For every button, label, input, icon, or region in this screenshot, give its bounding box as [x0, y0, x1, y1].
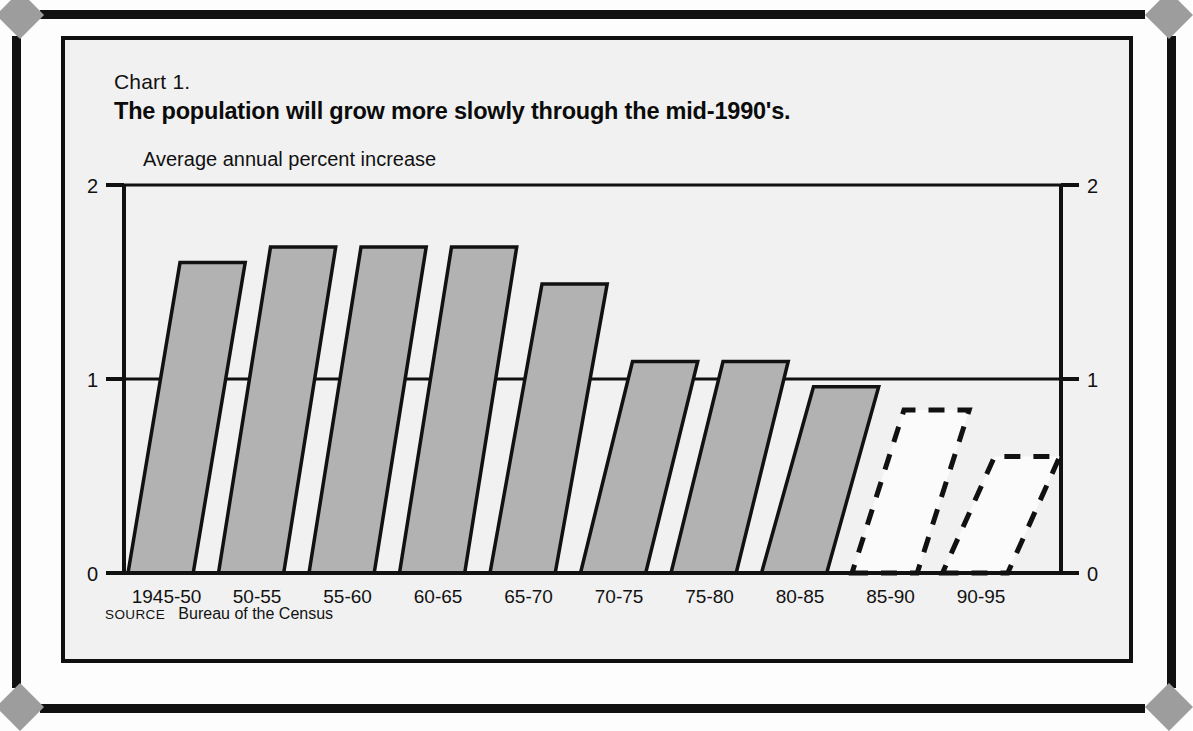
page-frame-top-rule	[40, 10, 1145, 19]
y-tick-label-left-1: 1	[87, 369, 98, 391]
x-axis-label-75-80: 75-80	[685, 586, 734, 607]
x-axis-label-90-95: 90-95	[957, 586, 1006, 607]
corner-diamond-bottom-right-icon	[1145, 683, 1193, 731]
y-tick-label-left-2: 2	[87, 175, 98, 197]
corner-diamond-top-right-icon	[1145, 0, 1193, 39]
corner-diamond-top-left-icon	[0, 0, 44, 39]
bar-chart-svg: 0011221945-5050-5555-6060-6565-7070-7575…	[65, 40, 1137, 667]
x-axis-label-60-65: 60-65	[414, 586, 463, 607]
x-axis-label-85-90: 85-90	[866, 586, 915, 607]
chart-panel: Chart 1. The population will grow more s…	[61, 36, 1133, 663]
source-label: SOURCE	[105, 607, 165, 622]
x-axis-label-50-55: 50-55	[233, 586, 282, 607]
source-note: SOURCE Bureau of the Census	[105, 605, 333, 623]
x-axis-label-65-70: 65-70	[504, 586, 553, 607]
page-frame-bottom-rule	[40, 704, 1145, 713]
x-axis-label-80-85: 80-85	[776, 586, 825, 607]
plot-area: 0011221945-5050-5555-6060-6565-7070-7575…	[65, 40, 1137, 667]
corner-diamond-bottom-left-icon	[0, 683, 44, 731]
x-axis-label-70-75: 70-75	[595, 586, 644, 607]
y-tick-label-right-0: 0	[1087, 563, 1098, 585]
page-frame-left-rule	[12, 36, 21, 688]
x-axis-label-55-60: 55-60	[323, 586, 372, 607]
source-value: Bureau of the Census	[178, 605, 333, 622]
page-frame-right-rule	[1167, 36, 1176, 688]
bar-90-95-projected	[943, 457, 1060, 573]
y-tick-label-right-2: 2	[1087, 175, 1098, 197]
x-axis-label-1945-50: 1945-50	[132, 586, 202, 607]
y-tick-label-right-1: 1	[1087, 369, 1098, 391]
y-tick-label-left-0: 0	[87, 563, 98, 585]
